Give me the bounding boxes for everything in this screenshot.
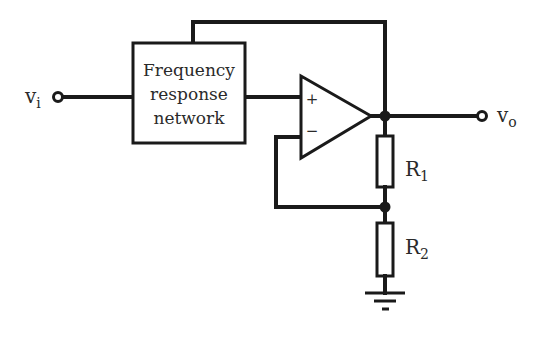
r1-label: R1 — [405, 157, 429, 184]
block-label-line-1: Frequency — [143, 60, 235, 80]
input-terminal — [54, 93, 63, 102]
block-label-line-3: network — [153, 108, 225, 128]
opamp-plus-label: + — [306, 90, 319, 108]
resistor-r1 — [377, 136, 393, 187]
opamp-triangle — [301, 76, 371, 158]
output-terminal — [478, 112, 487, 121]
input-label: vi — [24, 84, 41, 111]
output-label: vo — [496, 103, 517, 130]
ground-icon — [365, 293, 405, 309]
divider-junction-dot — [380, 202, 391, 213]
circuit-diagram: Frequency response network + − vi vo R1 … — [0, 0, 538, 338]
negative-feedback-wire — [276, 137, 385, 207]
block-label-line-2: response — [150, 84, 228, 104]
opamp-minus-label: − — [306, 122, 319, 140]
r2-label: R2 — [405, 235, 429, 262]
resistor-r2 — [377, 223, 393, 276]
